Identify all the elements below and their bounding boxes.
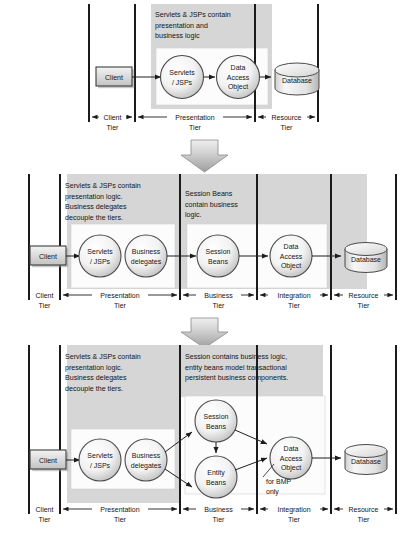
business-delegates-label: delegates [131, 258, 162, 266]
client-label: Client [39, 457, 57, 464]
dao-label: Object [281, 262, 301, 270]
diagram-2: Servlets & JSPs contain presentation log… [29, 174, 396, 309]
tier-legend: Client Tier Presentation Tier Business T… [31, 504, 393, 523]
session-beans-node [197, 235, 239, 277]
presentation-callout-line: presentation logic. [65, 364, 123, 372]
servlets-jsps-label: / JSPs [90, 258, 111, 265]
resource-tier-label: Tier [358, 516, 370, 523]
integration-tier-label: Tier [288, 302, 300, 309]
business-tier-label: Tier [213, 302, 225, 309]
database-label: Database [282, 77, 312, 84]
client-tier-label: Client [36, 506, 54, 513]
presentation-callout-line: decouple the tiers. [65, 385, 123, 393]
dao-label: Object [228, 83, 248, 91]
presentation-callout-line: Servlets & JSPs contain [155, 11, 231, 19]
dao-label: Access [280, 253, 303, 260]
dao-label: Access [280, 455, 303, 462]
business-callout-line: Session Beans [185, 190, 233, 198]
session-beans-node [195, 400, 237, 442]
diagram-3: Servlets & JSPs contain presentation log… [29, 345, 396, 523]
integration-tier-label: Integration [277, 506, 310, 514]
integration-tier-label: Integration [277, 292, 310, 300]
business-tier-label: Tier [213, 516, 225, 523]
database-label: Database [351, 458, 381, 465]
business-callout-line: contain business [185, 201, 238, 209]
client-tier-label: Client [36, 292, 54, 299]
client-tier-label: Tier [107, 124, 119, 131]
servlets-jsps-label: Servlets [87, 248, 113, 255]
presentation-callout-line: Servlets & JSPs contain [65, 353, 141, 361]
resource-tier-label: Resource [349, 292, 379, 299]
business-callout-line: Session contains business logic, [185, 353, 287, 361]
client-tier-label: Tier [39, 302, 51, 309]
presentation-tier-label: Tier [189, 124, 201, 131]
servlets-jsps-label: Servlets [87, 452, 113, 459]
business-delegates-node [125, 439, 167, 481]
transition-arrow-1 [181, 140, 228, 172]
presentation-tier-label: Presentation [175, 114, 214, 121]
resource-tier-label: Tier [281, 124, 293, 131]
resource-tier-label: Tier [358, 302, 370, 309]
entity-beans-node [195, 456, 237, 498]
diagram-1: Servlets & JSPs contain presentation and… [89, 4, 319, 131]
session-beans-label: Session [204, 413, 229, 420]
servlets-jsps-label: / JSPs [90, 462, 111, 469]
servlets-jsps-label: Servlets [169, 69, 195, 76]
business-callout-line: persistent business components. [185, 374, 288, 382]
dao-label: Data [231, 64, 246, 71]
servlets-jsps-node [79, 439, 121, 481]
bmp-note-line: for BMP [266, 478, 292, 485]
session-beans-label: Beans [206, 423, 226, 430]
business-callout-line: logic. [185, 211, 202, 219]
presentation-tier-label: Tier [114, 302, 126, 309]
business-delegates-node [125, 235, 167, 277]
tier-legend: Client Tier Presentation Tier Business T… [31, 290, 393, 309]
servlets-jsps-label: / JSPs [172, 79, 193, 86]
presentation-tier-label: Presentation [100, 292, 139, 299]
presentation-callout-line: presentation logic. [65, 193, 123, 201]
entity-beans-label: Entity [207, 469, 225, 477]
dao-label: Data [284, 445, 299, 452]
session-beans-label: Session [206, 248, 231, 255]
client-label: Client [105, 74, 123, 81]
servlets-jsps-node [79, 235, 121, 277]
presentation-tier-label: Presentation [100, 506, 139, 513]
architecture-evolution-figure: Servlets & JSPs contain presentation and… [0, 0, 412, 551]
transition-arrow-2 [181, 318, 228, 348]
business-delegates-label: delegates [131, 462, 162, 470]
presentation-callout-line: Servlets & JSPs contain [65, 182, 141, 190]
business-tier-label: Business [204, 506, 233, 513]
client-label: Client [39, 253, 57, 260]
presentation-callout-line: presentation and [155, 22, 208, 30]
presentation-callout-line: Business delegates [65, 203, 127, 211]
resource-tier-label: Resource [349, 506, 379, 513]
presentation-callout-line: decouple the tiers. [65, 214, 123, 222]
bmp-note-line: only [266, 488, 279, 496]
integration-tier-label: Tier [288, 516, 300, 523]
business-delegates-label: Business [132, 248, 161, 255]
business-delegates-label: Business [132, 452, 161, 459]
figure-canvas: Servlets & JSPs contain presentation and… [0, 0, 412, 551]
tier-legend: Client Tier Presentation Tier Resource T… [92, 112, 315, 131]
dao-label: Access [227, 74, 250, 81]
presentation-tier-label: Tier [114, 516, 126, 523]
resource-tier-label: Resource [272, 114, 302, 121]
dao-label: Data [284, 243, 299, 250]
client-tier-label: Client [104, 114, 122, 121]
servlets-jsps-node [161, 56, 204, 99]
presentation-callout-line: business logic [155, 32, 200, 40]
presentation-callout-line: Business delegates [65, 374, 127, 382]
client-tier-label: Tier [39, 516, 51, 523]
entity-beans-label: Beans [206, 479, 226, 486]
dao-label: Object [281, 464, 301, 472]
session-beans-label: Beans [208, 258, 228, 265]
database-label: Database [351, 256, 381, 263]
business-tier-label: Business [204, 292, 233, 299]
business-callout-line: entity beans model transactional [185, 364, 287, 372]
